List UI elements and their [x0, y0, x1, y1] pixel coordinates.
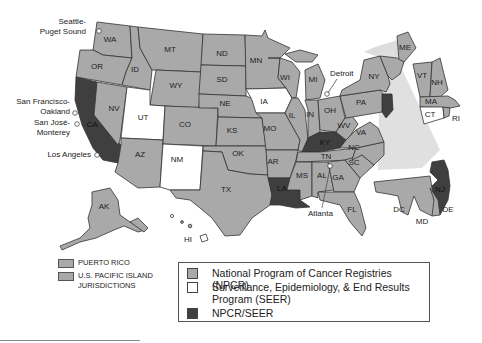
label-GA: GA	[332, 173, 344, 182]
label-DE: DE	[442, 205, 453, 214]
territory-legend: PUERTO RICO U.S. PACIFIC ISLAND JURISDIC…	[58, 258, 153, 294]
npcr-seer-swatch	[187, 308, 198, 319]
label-HI: HI	[184, 235, 192, 244]
pacific-islands-label: U.S. PACIFIC ISLAND JURISDICTIONS	[78, 271, 153, 291]
legend-item-both: NPCR/SEER	[187, 307, 273, 319]
label-ID: ID	[131, 65, 139, 74]
label-ME: ME	[399, 43, 411, 52]
label-NJ: NJ	[435, 185, 445, 194]
state-HI[interactable]	[200, 234, 208, 242]
label-LA: LA	[277, 184, 287, 193]
label-SC: SC	[348, 158, 359, 167]
state-MI-UP[interactable]	[285, 50, 318, 62]
label-MN: MN	[250, 56, 263, 65]
city-label-sf-1: San Francisco-	[16, 97, 70, 106]
legend-seer-line2: Program (SEER)	[212, 293, 291, 305]
city-label-sf-2: Oakland	[40, 107, 70, 116]
seer-swatch	[187, 282, 198, 293]
label-KS: KS	[227, 126, 238, 135]
pacific-islands-label-line1: U.S. PACIFIC ISLAND	[78, 271, 153, 280]
label-AL: AL	[317, 171, 327, 180]
label-MO: MO	[264, 124, 277, 133]
state-MD-inset[interactable]	[374, 176, 440, 216]
label-DC: DC	[393, 205, 405, 214]
label-CT: CT	[425, 110, 436, 119]
city-marker-atlanta	[328, 164, 333, 169]
label-OH: OH	[324, 106, 336, 115]
label-WV: WV	[338, 121, 352, 130]
label-AK: AK	[99, 202, 110, 211]
footnote-rule	[0, 340, 140, 341]
city-label-sj-2: Monterey	[37, 128, 70, 137]
city-marker-san-francisco	[73, 111, 78, 116]
label-IN: IN	[306, 110, 314, 119]
label-NC: NC	[348, 143, 360, 152]
legend-both-label: NPCR/SEER	[212, 307, 273, 319]
pacific-islands-label-line2: JURISDICTIONS	[78, 281, 136, 290]
city-label-seattle-1: Seattle-	[58, 17, 86, 26]
puerto-rico-label: PUERTO RICO	[78, 258, 130, 268]
label-VT: VT	[417, 71, 427, 80]
state-HI-island	[170, 214, 173, 217]
state-NM[interactable]	[160, 144, 203, 190]
label-TN: TN	[321, 152, 332, 161]
state-KS[interactable]	[216, 117, 266, 146]
program-legend: National Program of Cancer Registries (N…	[178, 262, 430, 322]
state-RI[interactable]	[443, 107, 450, 118]
label-WY: WY	[170, 81, 184, 90]
label-CO: CO	[179, 120, 191, 129]
city-label-detroit: Detroit	[330, 69, 354, 78]
label-WI: WI	[280, 73, 290, 82]
label-RI: RI	[452, 114, 460, 123]
label-IA: IA	[260, 97, 268, 106]
npcr-swatch	[187, 268, 198, 279]
label-KY: KY	[320, 138, 331, 147]
state-HI-island	[188, 224, 192, 228]
label-MT: MT	[164, 45, 176, 54]
city-label-sj-1: San José-	[34, 118, 70, 127]
label-VA: VA	[356, 128, 367, 137]
city-label-atlanta: Atlanta	[308, 209, 333, 218]
label-NH: NH	[431, 78, 443, 87]
label-CA: CA	[86, 120, 98, 129]
label-TX: TX	[221, 185, 232, 194]
label-IL: IL	[289, 111, 296, 120]
label-NM: NM	[171, 155, 184, 164]
city-marker-los-angeles	[95, 153, 100, 158]
city-marker-san-jose	[75, 122, 80, 127]
territory-pacific-islands: U.S. PACIFIC ISLAND JURISDICTIONS	[58, 271, 153, 291]
npcr-swatch	[58, 259, 74, 268]
label-ND: ND	[216, 49, 228, 58]
legend-seer-label: Surveillance, Epidemiology, & End Result…	[212, 281, 410, 305]
label-NV: NV	[108, 104, 120, 113]
label-AZ: AZ	[135, 150, 145, 159]
label-AR: AR	[267, 157, 278, 166]
city-label-seattle-2: Puget Sound	[40, 27, 86, 36]
label-FL: FL	[347, 205, 357, 214]
npcr-swatch	[58, 272, 74, 281]
state-AK[interactable]	[60, 188, 145, 250]
label-MS: MS	[296, 171, 308, 180]
label-WA: WA	[104, 35, 117, 44]
label-OK: OK	[232, 149, 244, 158]
detroit-leader-line	[328, 79, 337, 93]
label-UT: UT	[138, 113, 149, 122]
state-HI-island	[181, 221, 184, 224]
legend-item-seer: Surveillance, Epidemiology, & End Result…	[187, 281, 410, 305]
state-AZ[interactable]	[115, 138, 163, 188]
label-MA: MA	[425, 97, 438, 106]
label-NY: NY	[368, 72, 380, 81]
label-SD: SD	[216, 75, 227, 84]
city-marker-seattle	[97, 29, 102, 34]
label-NE: NE	[219, 99, 230, 108]
label-PA: PA	[356, 98, 367, 107]
label-OR: OR	[91, 62, 103, 71]
label-MD: MD	[416, 217, 429, 226]
city-label-los-angeles: Los Angeles	[47, 150, 91, 159]
label-MI: MI	[309, 75, 318, 84]
territory-puerto-rico: PUERTO RICO	[58, 258, 153, 268]
legend-seer-line1: Surveillance, Epidemiology, & End Result…	[212, 281, 410, 293]
